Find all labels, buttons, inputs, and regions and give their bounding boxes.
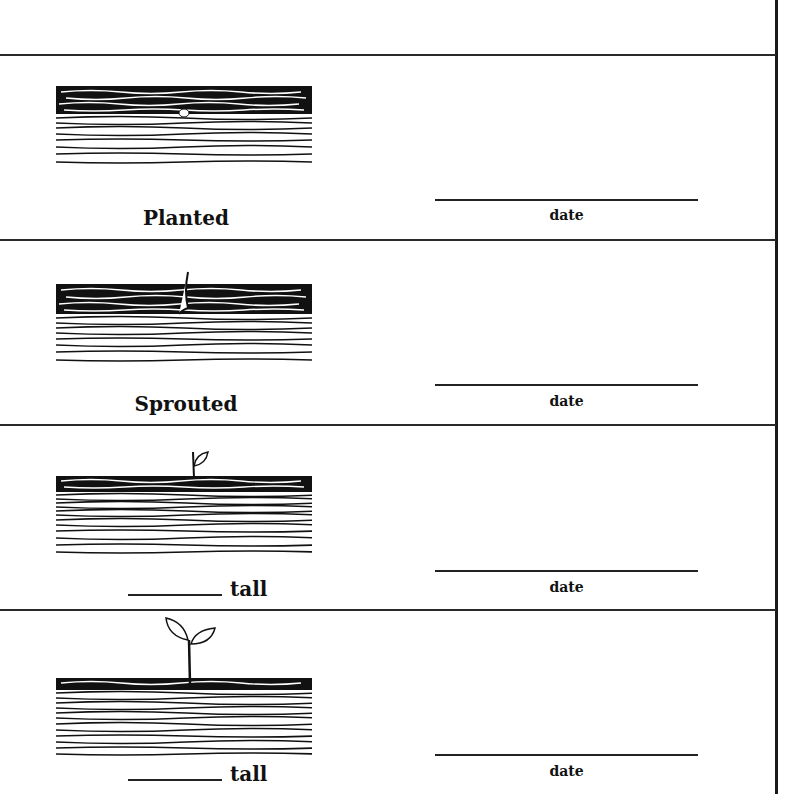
seedling-two-leaves-illustration bbox=[56, 614, 312, 759]
page-right-border bbox=[775, 0, 778, 794]
divider-top bbox=[0, 54, 776, 56]
date-label: date bbox=[435, 579, 698, 595]
divider-3 bbox=[0, 609, 776, 611]
date-label: date bbox=[435, 763, 698, 779]
stage-label: tall bbox=[230, 762, 267, 786]
height-field: tall bbox=[128, 577, 328, 601]
date-line[interactable] bbox=[435, 384, 698, 386]
date-line[interactable] bbox=[435, 570, 698, 572]
stage-label: tall bbox=[230, 577, 267, 601]
divider-2 bbox=[0, 424, 776, 426]
sprout-soil-illustration bbox=[56, 270, 312, 365]
date-label: date bbox=[435, 207, 698, 223]
date-line[interactable] bbox=[435, 754, 698, 756]
divider-1 bbox=[0, 239, 776, 241]
date-line[interactable] bbox=[435, 199, 698, 201]
stage-label: Planted bbox=[56, 206, 316, 230]
height-blank[interactable] bbox=[128, 765, 222, 781]
stage-label: Sprouted bbox=[56, 392, 316, 416]
seedling-soil-illustration bbox=[56, 448, 312, 558]
date-label: date bbox=[435, 393, 698, 409]
height-field: tall bbox=[128, 762, 328, 786]
height-blank[interactable] bbox=[128, 580, 222, 596]
seed-soil-illustration bbox=[56, 86, 312, 166]
